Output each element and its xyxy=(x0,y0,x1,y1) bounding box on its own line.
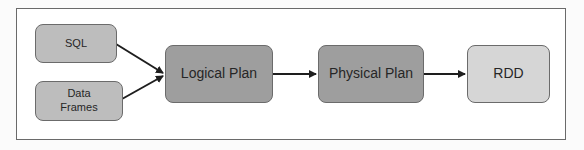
node-sql: SQL xyxy=(35,24,117,63)
node-sql-label: SQL xyxy=(65,37,87,51)
node-dataframes: Data Frames xyxy=(35,81,123,121)
node-dataframes-label-line2: Frames xyxy=(60,101,97,115)
node-rdd-label: RDD xyxy=(493,65,523,83)
node-physical-plan-label: Physical Plan xyxy=(329,65,413,83)
node-logical-plan-label: Logical Plan xyxy=(181,65,257,83)
node-physical-plan: Physical Plan xyxy=(318,45,424,103)
node-logical-plan: Logical Plan xyxy=(165,45,273,103)
diagram-canvas: SQL Data Frames Logical Plan Physical Pl… xyxy=(0,0,584,150)
node-rdd: RDD xyxy=(467,45,550,103)
node-dataframes-label-line1: Data xyxy=(60,87,97,101)
